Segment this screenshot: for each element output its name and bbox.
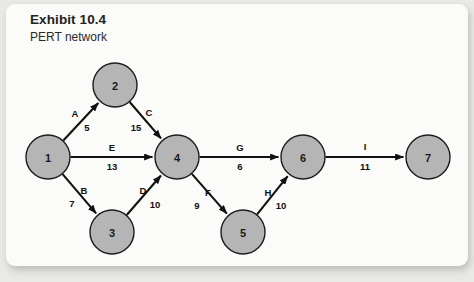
edge-label-a: A: [72, 108, 79, 119]
edge-a-arrow: [63, 103, 98, 141]
node-label-6: 6: [300, 152, 306, 164]
edge-duration-g: 6: [237, 161, 242, 172]
node-5: 5: [221, 210, 265, 254]
node-label-1: 1: [45, 152, 51, 164]
edges-layer: [63, 102, 404, 215]
node-label-7: 7: [425, 152, 431, 164]
edge-b-arrow: [63, 174, 96, 213]
pert-network-diagram: 1234567 A5C15E13B7D10G6F9H10I11: [6, 4, 468, 266]
edge-duration-f: 9: [194, 200, 199, 211]
edge-label-f: F: [205, 187, 211, 198]
edge-label-h: H: [265, 187, 272, 198]
edge-label-i: I: [364, 141, 367, 152]
edge-label-e: E: [109, 142, 115, 153]
node-label-2: 2: [112, 80, 118, 92]
edge-duration-c: 15: [131, 122, 142, 133]
exhibit-panel: Exhibit 10.4 PERT network 1234567 A5C15E…: [6, 4, 468, 266]
node-4: 4: [155, 135, 199, 179]
node-label-4: 4: [174, 152, 181, 164]
edge-duration-b: 7: [69, 198, 74, 209]
edge-label-b: B: [81, 185, 88, 196]
node-2: 2: [93, 63, 137, 107]
node-3: 3: [90, 210, 134, 254]
edge-duration-a: 5: [84, 122, 90, 133]
edge-label-d: D: [140, 185, 147, 196]
node-label-5: 5: [240, 227, 246, 239]
edge-label-g: G: [236, 142, 243, 153]
node-1: 1: [26, 135, 70, 179]
node-6: 6: [281, 135, 325, 179]
edge-duration-i: 11: [360, 161, 371, 172]
edge-label-c: C: [146, 107, 153, 118]
node-label-3: 3: [109, 227, 115, 239]
edge-duration-e: 13: [107, 161, 118, 172]
node-7: 7: [406, 135, 450, 179]
edge-duration-h: 10: [276, 200, 287, 211]
nodes-layer: 1234567: [26, 63, 450, 254]
edge-duration-d: 10: [150, 199, 161, 210]
